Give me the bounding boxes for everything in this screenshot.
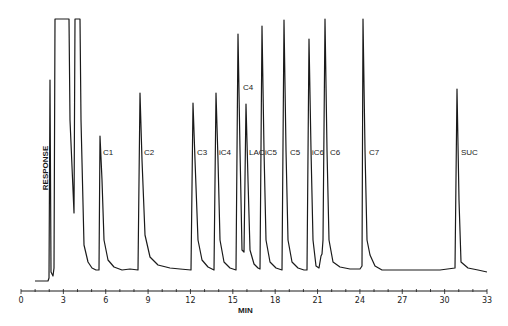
peak-label-c7: C7 — [369, 148, 380, 157]
x-tick-label: 6 — [103, 296, 108, 305]
x-tick-label: 21 — [312, 296, 322, 305]
x-tick-label: 18 — [270, 296, 280, 305]
x-tick-label: 0 — [18, 296, 23, 305]
x-tick-label: 27 — [397, 296, 407, 305]
x-tick-label: 9 — [146, 296, 151, 305]
x-tick-label: 24 — [355, 296, 365, 305]
peak-label-c2: C2 — [144, 148, 155, 157]
peak-label-c4: C4 — [243, 83, 254, 92]
peak-label-c6: C6 — [330, 148, 341, 157]
x-tick-label: 12 — [185, 296, 195, 305]
x-axis-title: MIN — [238, 306, 253, 315]
peak-label-ic4: iC4 — [219, 148, 232, 157]
chromatogram: 03691215182124273033 MIN RESPONSE C1 C2 … — [0, 0, 508, 326]
peak-label-c5: C5 — [290, 148, 301, 157]
peak-label-lac: LAC — [249, 148, 265, 157]
y-axis-title: RESPONSE — [41, 145, 50, 190]
x-tick-label: 3 — [61, 296, 66, 305]
peak-label-suc: SUC — [461, 148, 478, 157]
peak-label-c1: C1 — [103, 148, 114, 157]
x-tick-label: 15 — [228, 296, 238, 305]
peak-label-c3: C3 — [197, 148, 208, 157]
peak-label-ic6: iC6 — [312, 148, 325, 157]
peak-label-ic5: iC5 — [265, 148, 278, 157]
x-tick-label: 33 — [482, 296, 492, 305]
x-tick-label: 30 — [440, 296, 450, 305]
